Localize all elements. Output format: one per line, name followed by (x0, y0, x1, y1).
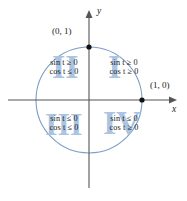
quadrant-i-signs: sin t ≥ 0 cos t ≥ 0 (98, 58, 150, 77)
quadrant-iv-cos-text: cos t ≥ 0 (98, 123, 150, 132)
quadrant-ii-signs: sin t ≥ 0 cos t ≤ 0 (38, 58, 90, 77)
y-axis-arrow-icon (86, 10, 93, 18)
quadrant-iii-cos-text: cos t ≤ 0 (38, 123, 90, 132)
x-axis-label: x (172, 104, 176, 114)
unit-circle-graphic (0, 0, 187, 201)
unit-circle-figure: I II III IV sin t ≥ 0 cos t ≥ 0 sin t ≥ … (0, 0, 187, 201)
point-marker-1-0 (139, 97, 144, 102)
quadrant-i-cos-text: cos t ≥ 0 (98, 67, 150, 76)
point-label-0-1: (0, 1) (52, 26, 72, 36)
quadrant-iii-signs: sin t ≤ 0 cos t ≤ 0 (38, 114, 90, 133)
quadrant-iv-sin-text: sin t ≤ 0 (98, 114, 150, 123)
quadrant-ii-cos-text: cos t ≤ 0 (38, 67, 90, 76)
quadrant-ii-sin-text: sin t ≥ 0 (38, 58, 90, 67)
y-axis-label: y (97, 6, 101, 16)
quadrant-iii-sin-text: sin t ≤ 0 (38, 114, 90, 123)
quadrant-iv-signs: sin t ≤ 0 cos t ≥ 0 (98, 114, 150, 133)
x-axis-arrow-icon (169, 97, 177, 104)
point-marker-0-1 (86, 44, 91, 49)
quadrant-i-sin-text: sin t ≥ 0 (98, 58, 150, 67)
point-label-1-0: (1, 0) (150, 80, 170, 90)
